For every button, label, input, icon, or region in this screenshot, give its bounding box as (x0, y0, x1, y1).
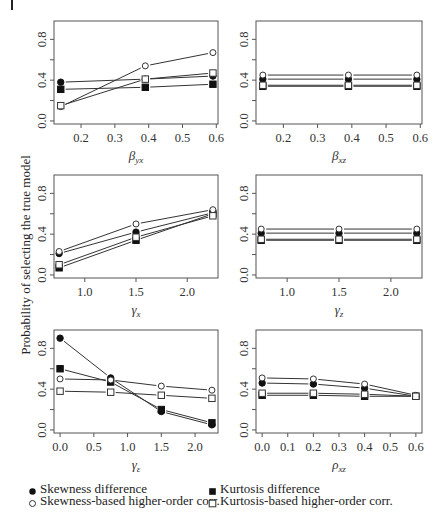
x-tick-label: 2.0 (187, 440, 203, 454)
y-tick-label: 0.8 (35, 341, 49, 357)
open-circle-marker (414, 226, 420, 232)
series-line (166, 386, 207, 389)
series-line (318, 395, 359, 396)
filled-square-marker (57, 366, 63, 372)
open-square-marker (209, 395, 215, 401)
open-circle-marker (258, 226, 264, 232)
filled-square-marker (58, 86, 64, 92)
panel-bottom-left: 0.00.40.80.00.51.01.52.0γε (35, 330, 218, 474)
series-open-square (259, 390, 419, 399)
x-tick-label: 0.6 (412, 131, 428, 145)
x-tick-label: 0.2 (276, 131, 292, 145)
open-circle-marker (209, 387, 215, 393)
x-tick-label: 0.3 (107, 131, 123, 145)
open-circle-marker (158, 383, 164, 389)
open-square-marker (57, 388, 63, 394)
series-open-square (260, 82, 420, 88)
series-line (318, 379, 359, 383)
x-tick-label: 0.6 (408, 440, 424, 454)
panel-middle-right: 0.00.40.81.01.52.0γz (237, 175, 422, 319)
open-square-marker (361, 391, 367, 397)
y-tick-label: 0.4 (35, 381, 49, 397)
series-open-circle (258, 226, 420, 232)
x-tick-label: 0.2 (306, 440, 322, 454)
open-square-marker (258, 236, 264, 242)
open-square-icon (208, 497, 217, 506)
x-tick-label: 0.6 (208, 131, 224, 145)
series-filled-square (57, 366, 215, 426)
panel-middle-left: 0.00.40.81.01.52.0γx (35, 175, 218, 319)
series-line (150, 84, 208, 87)
x-axis-title: ρxz (331, 457, 346, 474)
multi-panel-line-chart: Probability of selecting the true model … (0, 0, 445, 519)
series-open-square (258, 236, 420, 242)
open-circle-marker (142, 63, 148, 69)
x-tick-label: 1.5 (128, 285, 144, 299)
filled-square-marker (209, 420, 215, 426)
series-line (166, 411, 207, 422)
open-circle-marker (336, 226, 342, 232)
x-tick-label: 0.3 (310, 131, 326, 145)
open-square-marker (58, 102, 64, 108)
x-tick-label: 1.5 (331, 285, 347, 299)
open-circle-marker (259, 375, 265, 381)
series-line (66, 79, 141, 82)
x-tick-label: 0.5 (382, 440, 398, 454)
plot-frame (54, 21, 218, 124)
open-square-marker (107, 389, 113, 395)
x-tick-label: 0.1 (280, 440, 296, 454)
series-line (65, 68, 141, 104)
x-tick-label: 0.0 (52, 440, 68, 454)
x-tick-label: 1.0 (120, 440, 136, 454)
series-filled-square (260, 83, 420, 89)
filled-circle-marker (58, 79, 64, 85)
open-square-marker (142, 76, 148, 82)
open-square-marker (414, 82, 420, 88)
open-square-marker (414, 236, 420, 242)
y-tick-label: 0.0 (35, 113, 49, 129)
open-circle-marker (133, 221, 139, 227)
open-square-marker (259, 390, 265, 396)
series-line (64, 242, 131, 266)
x-tick-label: 1.5 (153, 440, 169, 454)
open-circle-icon (28, 497, 37, 506)
x-tick-label: 1.0 (279, 285, 295, 299)
open-circle-marker (414, 72, 420, 78)
open-circle-marker (362, 381, 368, 387)
series-filled-circle (56, 210, 216, 257)
x-axis-title: βyx (128, 148, 143, 165)
x-tick-label: 0.4 (344, 131, 360, 145)
x-tick-label: 2.0 (383, 285, 399, 299)
open-circle-marker (310, 376, 316, 382)
filled-circle-marker (57, 335, 63, 341)
series-filled-circle (260, 76, 420, 82)
x-tick-label: 0.5 (378, 131, 394, 145)
open-circle-marker (108, 377, 114, 383)
y-tick-label: 0.4 (35, 72, 49, 88)
open-circle-marker (210, 50, 216, 56)
open-square-marker (56, 262, 62, 268)
open-square-marker (413, 393, 419, 399)
open-circle-marker (260, 72, 266, 78)
legend-label: Skewness-based higher-order corr. (40, 494, 220, 508)
x-tick-label: 0.4 (141, 131, 157, 145)
open-circle-marker (345, 72, 351, 78)
x-tick-label: 2.0 (179, 285, 195, 299)
series-line (141, 217, 208, 236)
y-tick-label: 0.0 (35, 267, 49, 283)
series-line (318, 393, 359, 394)
series-open-circle (260, 72, 420, 78)
open-square-marker (210, 213, 216, 219)
y-tick-label: 0.8 (35, 186, 49, 202)
legend-label: Kurtosis-based higher-order corr. (220, 494, 393, 508)
y-tick-label: 0.4 (237, 226, 251, 242)
y-axis-title: Probability of selecting the true model (18, 155, 33, 355)
panel-top-left: 0.00.40.80.20.30.40.50.6βyx (35, 21, 224, 165)
open-square-marker (310, 390, 316, 396)
panel-bottom-right: 0.00.40.80.00.10.20.30.40.50.6ρxz (237, 330, 424, 474)
open-square-marker (336, 236, 342, 242)
y-tick-label: 0.4 (35, 226, 49, 242)
x-axis-title: γε (132, 457, 141, 474)
y-tick-label: 0.0 (237, 422, 251, 438)
y-tick-label: 0.0 (237, 113, 251, 129)
